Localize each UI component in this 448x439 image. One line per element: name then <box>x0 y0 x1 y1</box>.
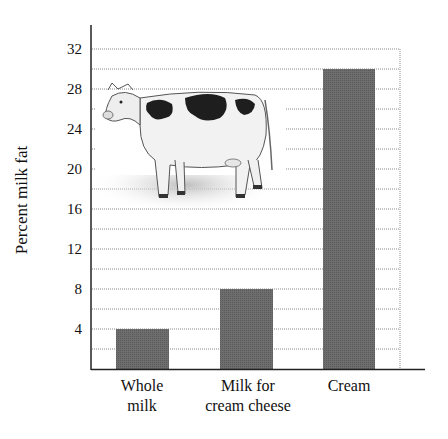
bar-whole-milk <box>116 329 169 369</box>
x-label-milk-for-cream-cheese: Milk for cream cheese <box>196 376 300 416</box>
bar-cream <box>323 69 375 369</box>
x-label-line: Whole <box>102 376 182 396</box>
cow-illustration <box>90 83 285 213</box>
x-label-line: milk <box>102 396 182 416</box>
x-label-line: cream cheese <box>196 396 300 416</box>
bar-milk-for-cream-cheese <box>220 289 273 369</box>
x-label-line: Milk for <box>196 376 300 396</box>
chart-plot <box>0 0 448 439</box>
x-label-whole-milk: Whole milk <box>102 376 182 416</box>
x-label-cream: Cream <box>309 376 389 396</box>
x-label-line: Cream <box>309 376 389 396</box>
